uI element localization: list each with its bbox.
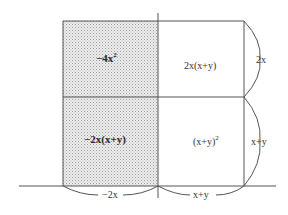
cell-label-bottom-right: (x+y)2 xyxy=(193,134,219,148)
cell-label-top-right: 2x(x+y) xyxy=(184,60,216,72)
dim-label-right-top: 2x xyxy=(256,54,266,65)
dim-label-right-bottom: x+y xyxy=(251,136,267,147)
dim-label-bottom-left: −2x xyxy=(102,189,118,200)
dim-label-bottom-right: x+y xyxy=(193,189,209,200)
cell-label-bottom-left: −2x(x+y) xyxy=(84,133,126,146)
area-model-diagram: −4x2 2x(x+y) −2x(x+y) (x+y)2 2x x+y −2x … xyxy=(0,0,288,215)
